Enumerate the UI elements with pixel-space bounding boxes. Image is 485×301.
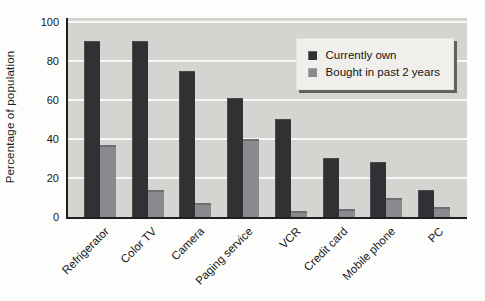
bar-group (76, 18, 124, 217)
bar-bought-past-2-years (100, 145, 116, 217)
x-category-label-text: PC (426, 225, 446, 245)
bar-currently-own (132, 41, 148, 217)
bar-bought-past-2-years (339, 209, 355, 217)
x-axis-category-labels: RefrigeratorColor TVCameraPaging service… (66, 221, 465, 301)
bar-bought-past-2-years (434, 207, 450, 217)
bar-currently-own (275, 119, 291, 217)
x-category-label-text: VCR (277, 225, 303, 251)
y-tick-label: 80 (0, 54, 59, 68)
bar-currently-own (370, 162, 386, 217)
bar-group (172, 18, 220, 217)
bar-bought-past-2-years (195, 203, 211, 217)
bar-bought-past-2-years (386, 198, 402, 218)
bar-bought-past-2-years (243, 139, 259, 217)
bar-currently-own (179, 71, 195, 217)
bar-bought-past-2-years (148, 190, 164, 217)
bar-currently-own (84, 41, 100, 217)
legend-label: Bought in past 2 years (326, 65, 440, 80)
y-axis-title: Percentage of population (4, 51, 16, 184)
y-tick-label: 0 (0, 210, 59, 224)
y-tick-label: 20 (0, 171, 59, 185)
legend-item: Currently own (308, 48, 440, 63)
bar-bought-past-2-years (291, 211, 307, 217)
y-tick-label: 40 (0, 132, 59, 146)
legend-swatch-currently-own (308, 51, 317, 60)
y-tick-label: 100 (0, 15, 59, 29)
bar-currently-own (323, 158, 339, 217)
bar-group (219, 18, 267, 217)
legend-item: Bought in past 2 years (308, 65, 440, 80)
x-category-label-text: Color TV (119, 225, 159, 265)
x-category-label-text: Camera (169, 225, 206, 262)
consumer-goods-ownership-bar-chart: Percentage of population 020406080100 Cu… (0, 0, 485, 301)
legend: Currently ownBought in past 2 years (296, 38, 454, 90)
legend-label: Currently own (326, 48, 397, 63)
bar-group (124, 18, 172, 217)
y-tick-label: 60 (0, 93, 59, 107)
x-category-label-text: Refrigerator (60, 225, 111, 276)
plot-area: Currently ownBought in past 2 years (66, 18, 467, 219)
x-category-label-text: Credit card (302, 225, 350, 273)
bar-currently-own (418, 190, 434, 217)
legend-swatch-bought-past-2-years (308, 68, 317, 77)
bar-currently-own (227, 98, 243, 217)
